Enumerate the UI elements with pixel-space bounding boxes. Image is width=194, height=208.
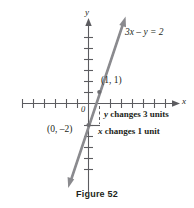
point-label-0-neg2: (0, –2): [47, 125, 72, 135]
x-axis-label: x: [182, 97, 186, 106]
coordinate-graph: [0, 0, 194, 208]
x-axis: [22, 100, 180, 106]
point-marker-1-1: [97, 90, 101, 94]
equation-label: 3x – y = 2: [125, 28, 164, 38]
rise-text: changes 3 units: [108, 109, 169, 119]
point-label-1-1: (1, 1): [101, 76, 122, 86]
equation-text: 3x – y = 2: [125, 27, 164, 37]
figure-container: 3x – y = 2 (1, 1) (0, –2) 0 x y y change…: [0, 0, 194, 208]
run-text: changes 1 unit: [103, 126, 160, 136]
run-annotation: x changes 1 unit: [98, 127, 160, 136]
origin-label: 0: [81, 105, 85, 114]
rise-annotation: y changes 3 units: [104, 110, 169, 119]
y-axis: [85, 18, 91, 192]
plotted-line: [68, 17, 126, 189]
y-axis-label: y: [85, 8, 89, 17]
point-marker-0-neg2: [86, 123, 90, 127]
figure-caption: Figure 52: [0, 189, 194, 199]
